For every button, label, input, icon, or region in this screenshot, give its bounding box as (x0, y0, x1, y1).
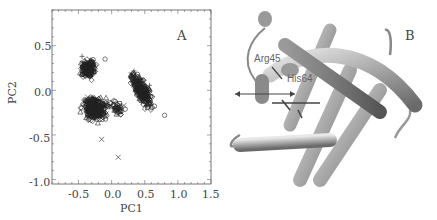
residue-label-his64: His64 (287, 73, 313, 84)
y-axis-title: PC2 (6, 81, 19, 104)
x-tick-label: 1.0 (170, 188, 188, 201)
y-tick-label: -0.5 (29, 132, 50, 145)
x-tick-label: 0.5 (137, 188, 155, 201)
plot-frame (52, 10, 211, 184)
y-tick-label: -1.0 (29, 176, 50, 189)
helix-tube (240, 140, 330, 145)
y-tick-label: 0.0 (34, 86, 52, 99)
panel-label-b: B (405, 28, 415, 43)
axis-ticks (52, 10, 211, 184)
y-tick-label: 0.5 (34, 40, 52, 53)
helix-end (258, 11, 272, 27)
loop-coil (385, 30, 391, 55)
x-tick-label: 0.0 (104, 188, 122, 201)
x-tick-label: -0.5 (68, 188, 89, 201)
panel-b-protein-structure: B Arg45 His64 (220, 0, 437, 220)
x-tick-label: 1.5 (202, 188, 220, 201)
residue-label-arg45: Arg45 (254, 53, 281, 64)
helix-short (255, 74, 269, 104)
data-points (78, 54, 167, 160)
panel-label-a: A (177, 28, 186, 43)
loop-coil (395, 110, 410, 138)
panel-a-pca-scatter: A PC1 PC2 -0.5 0.0 0.5 1.0 1.5 0.5 0.0 -… (0, 0, 220, 220)
x-axis-label: PC1 (120, 202, 143, 215)
